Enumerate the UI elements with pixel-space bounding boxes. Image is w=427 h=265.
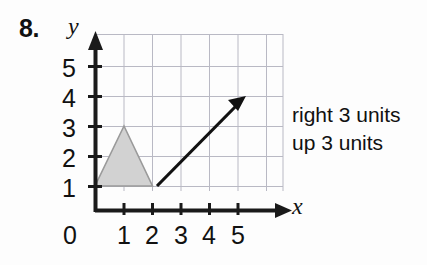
y-tick-label-4: 4 bbox=[54, 84, 76, 113]
x-tick-label-1: 1 bbox=[112, 221, 136, 250]
x-tick-label-0: 0 bbox=[58, 221, 82, 250]
y-tick-label-1: 1 bbox=[54, 174, 76, 203]
y-axis-label: y bbox=[68, 13, 79, 40]
instruction-line-right: right 3 units bbox=[292, 103, 401, 127]
y-tick-label-3: 3 bbox=[54, 114, 76, 143]
x-tick-label-2: 2 bbox=[140, 221, 164, 250]
worksheet-page: 8. bbox=[0, 0, 427, 265]
y-tick-label-5: 5 bbox=[54, 54, 76, 83]
instruction-line-up: up 3 units bbox=[292, 131, 383, 155]
x-tick-label-4: 4 bbox=[197, 221, 221, 250]
x-axis-label: x bbox=[292, 193, 303, 220]
x-tick-label-3: 3 bbox=[169, 221, 193, 250]
x-tick-label-5: 5 bbox=[226, 221, 250, 250]
translation-vector-arrow bbox=[157, 96, 246, 186]
y-tick-label-2: 2 bbox=[54, 144, 76, 173]
